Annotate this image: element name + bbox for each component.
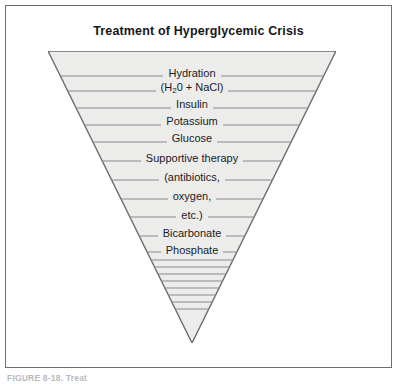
funnel-label-hydration: Hydration <box>48 68 336 79</box>
funnel-label-potassium: Potassium <box>48 116 336 127</box>
funnel-label-insulin: Insulin <box>48 99 336 110</box>
funnel-label-bicarbonate: Bicarbonate <box>48 228 336 239</box>
funnel-label-glucose: Glucose <box>48 133 336 144</box>
figure-frame: Treatment of Hyperglycemic Crisis Hydrat… <box>5 5 392 368</box>
figure-caption: FIGURE 8-18. Treat <box>7 373 402 383</box>
funnel-label-supportive-therapy: Supportive therapy <box>48 153 336 164</box>
funnel-label-layer: Hydration (H20 + NaCl) Insulin Potassium… <box>48 51 336 343</box>
funnel-label-phosphate: Phosphate <box>48 245 336 256</box>
funnel-label-oxygen: oxygen, <box>48 191 336 202</box>
funnel-label-etc: etc.) <box>48 210 336 221</box>
funnel-label-hydration-formula: (H20 + NaCl) <box>48 82 336 94</box>
funnel-diagram: Hydration (H20 + NaCl) Insulin Potassium… <box>48 51 336 343</box>
figure-title: Treatment of Hyperglycemic Crisis <box>6 24 391 38</box>
funnel-label-antibiotics: (antibiotics, <box>48 172 336 183</box>
